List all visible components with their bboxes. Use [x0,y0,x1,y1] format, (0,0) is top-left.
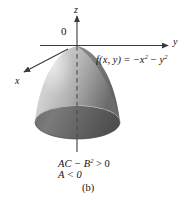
function-equation-label: f(x, y) = −x2 − y2 [96,55,168,66]
condition-a-negative: A < 0 [58,170,82,181]
condition-discriminant: AC − B2 > 0 [58,159,110,170]
function-term2-exponent: 2 [164,53,167,60]
condition-discriminant-prefix: AC − B [58,158,90,169]
function-minus: − [148,54,159,65]
origin-label: 0 [61,26,67,37]
x-axis-label: x [15,76,19,86]
panel-label: (b) [82,183,94,194]
z-axis-label: z [74,5,78,15]
function-term1-base: −x [133,54,145,65]
function-arguments: (x, y) [99,54,121,65]
paraboloid-figure [0,0,186,200]
function-equals: = [121,54,132,65]
coordinate-axes [40,16,168,46]
y-axis-label: y [173,37,177,47]
condition-discriminant-suffix: > 0 [93,158,109,169]
